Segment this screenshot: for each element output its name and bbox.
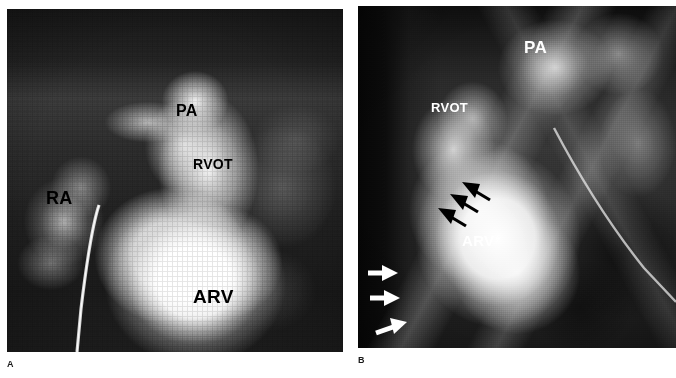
panel-a-angiogram-image: PA RVOT RA ARV (7, 9, 343, 352)
label-rvot-panel-a: RVOT (193, 157, 233, 171)
label-rvot-panel-b: RVOT (431, 101, 468, 114)
panel-caption-a: A (7, 360, 14, 369)
label-pa-panel-b: PA (524, 39, 547, 56)
panel-a-radiograph (7, 9, 343, 352)
panel-caption-b: B (358, 356, 365, 365)
label-arv-panel-b: ARV (462, 233, 494, 248)
panel-b-radiograph (358, 6, 676, 348)
figure-container: PA RVOT RA ARV A (0, 0, 676, 378)
label-ra-panel-a: RA (46, 189, 73, 207)
panel-b-angiogram-image: PA RVOT ARV (358, 6, 676, 348)
label-pa-panel-a: PA (176, 103, 198, 119)
label-arv-panel-a: ARV (193, 287, 234, 306)
